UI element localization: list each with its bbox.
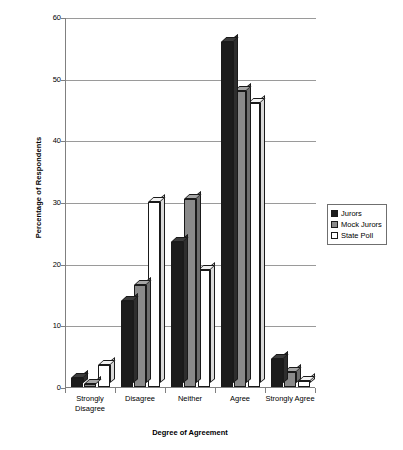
y-tick-label: 40 [33,137,61,145]
legend-swatch-icon [331,221,338,228]
category-separator [65,388,66,393]
bar-side [246,83,251,383]
bar-group [266,17,316,387]
category-separator [115,388,116,393]
bar-jurors [121,301,133,387]
bar-face [84,384,96,387]
bar-side [146,277,151,383]
category-separator [165,388,166,393]
legend-item: Mock Jurors [331,219,382,230]
bar-face [121,301,133,387]
bar-jurors [271,359,283,387]
legend-swatch-icon [331,232,338,239]
category-separator [265,388,266,393]
y-tick-label: 20 [33,261,61,269]
legend-swatch-icon [331,210,338,217]
bar-jurors [171,242,183,387]
bar-face [221,42,233,387]
bar-state-poll [298,381,310,387]
bar-side [183,234,188,383]
bar-side [160,194,165,383]
bar-face [71,378,83,387]
bar-group [66,17,116,387]
legend-item: State Poll [331,230,382,241]
category-separator [215,388,216,393]
x-axis-title: Degree of Agreement [65,428,315,437]
y-tick-label: 30 [33,199,61,207]
bar-face [298,381,310,387]
bar-face [271,359,283,387]
y-axis-title: Percentage of Respondents [34,88,43,288]
bar-mock-jurors [84,384,96,387]
y-tick-label: 50 [33,76,61,84]
y-tick-label: 10 [33,322,61,330]
bar-group [216,17,266,387]
bar-side [233,34,238,383]
bar-side [260,95,265,383]
bar-group [166,17,216,387]
bar-chart: Percentage of Respondents 0102030405060 … [0,0,403,450]
category-separator [315,388,316,393]
plot-area [65,18,315,388]
bar-jurors [71,378,83,387]
y-tick-label: 0 [33,384,61,392]
bar-side [133,293,138,383]
bar-jurors [221,42,233,387]
bar-face [171,242,183,387]
legend-label: Jurors [341,209,362,218]
legend: JurorsMock JurorsState Poll [327,204,387,245]
bar-side [196,191,201,383]
legend-item: Jurors [331,208,382,219]
bar-side [210,262,215,383]
bar-group [116,17,166,387]
legend-label: State Poll [341,231,373,240]
legend-label: Mock Jurors [341,220,382,229]
y-tick-label: 60 [33,14,61,22]
x-tick-label: Strongly Agree [253,394,327,404]
